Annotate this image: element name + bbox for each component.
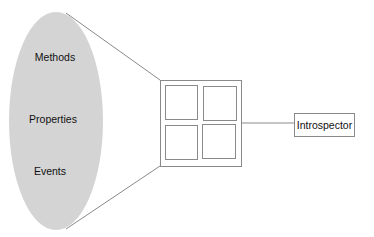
- pane-top-right: [204, 87, 237, 121]
- diagram-canvas: Introspector Methods Properties Events: [0, 0, 374, 237]
- pane-top-left: [166, 86, 198, 120]
- pane-bottom-left: [166, 126, 198, 160]
- pane-bottom-right: [203, 125, 236, 159]
- member-label-events: Events: [34, 165, 66, 177]
- component-window: [161, 81, 242, 167]
- member-label-properties: Properties: [29, 113, 77, 125]
- introspector-label: Introspector: [297, 119, 353, 131]
- member-label-methods: Methods: [35, 51, 75, 63]
